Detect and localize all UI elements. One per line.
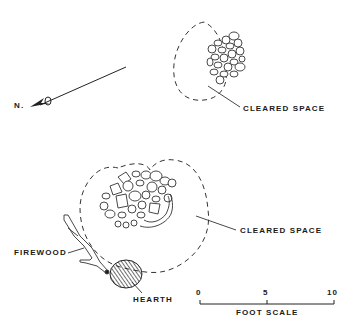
firewood-callout-line bbox=[68, 248, 84, 253]
north-arrow-icon bbox=[30, 67, 126, 107]
scale-tick-5: 5 bbox=[263, 288, 269, 297]
upper-callout-line bbox=[208, 86, 240, 107]
scale-tick-0: 0 bbox=[196, 288, 202, 297]
scale-title: FOOT SCALE bbox=[236, 308, 299, 317]
lower-cleared-space-label: CLEARED SPACE bbox=[240, 226, 322, 235]
upper-cleared-space-label: CLEARED SPACE bbox=[243, 104, 325, 113]
lower-rock-cluster bbox=[100, 171, 176, 228]
hearth-label: HEARTH bbox=[133, 295, 173, 304]
upper-cleared-space-outline bbox=[174, 22, 227, 100]
firewood-icon bbox=[64, 215, 109, 274]
scale-tick-10: 10 bbox=[327, 288, 338, 297]
site-plan-diagram: N. CLEARED SPACE CLEARED SPACE FIREWOOD … bbox=[0, 0, 356, 334]
scale-bar bbox=[200, 300, 334, 304]
lower-callout-line bbox=[196, 216, 236, 230]
north-label: N. bbox=[14, 101, 24, 110]
hearth-icon bbox=[110, 260, 142, 288]
upper-rock-cluster bbox=[207, 32, 245, 84]
firewood-label: FIREWOOD bbox=[14, 248, 67, 257]
